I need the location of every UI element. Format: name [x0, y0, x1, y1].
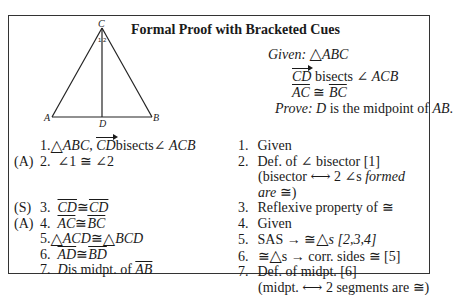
given-line-2: CD bisects ∠ ACB	[268, 69, 453, 85]
prove-line: Prove: D is the midpoint of AB.	[268, 101, 453, 117]
statement-row: 1.△ABC, CD bisects ∠ ACB	[14, 138, 196, 154]
cue-badge: (A)	[14, 154, 40, 170]
angle-2-label: 2	[103, 37, 107, 43]
reason-row: 1. Given	[238, 138, 429, 154]
triangle-icon: △	[51, 138, 63, 154]
reason-subline: (midpt. ⟷ 2 segments are ≅)	[238, 280, 429, 295]
reason-row: 5. SAS → ≅△s [2,3,4]	[238, 231, 429, 248]
statement-row: (S) 3. CD ≅ CD	[14, 200, 196, 216]
reason-row: 7. Def. of midpt. [6]	[238, 264, 429, 280]
vertex-b-label: B	[153, 112, 159, 123]
reason-row: 3. Reflexive property of ≅	[238, 200, 429, 216]
triangle-icon: △	[103, 231, 115, 247]
triangle-icon: △	[270, 247, 282, 264]
cue-badge: (A)	[14, 216, 40, 232]
reason-row: 6. ≅△s → corr. sides ≅ [5]	[238, 248, 429, 265]
cue-badge: (S)	[14, 200, 40, 216]
statement-row: (A) 4. AC ≅ BC	[14, 216, 196, 232]
statement-row: 6. AD ≅ BD	[14, 247, 196, 263]
statements-column: 1.△ABC, CD bisects ∠ ACB (A) 2. ∠1 ≅ ∠2 …	[14, 138, 196, 278]
reason-subline: (bisector ⟷ 2 ∠s formed	[238, 169, 429, 185]
triangle-icon: △	[310, 45, 322, 62]
given-line-3: AC ≅ BC	[268, 85, 453, 101]
vertex-c-label: C	[98, 18, 105, 29]
vertex-d-label: D	[98, 118, 107, 129]
angle-icon: ∠	[154, 138, 166, 154]
vertex-a-label: A	[43, 112, 51, 123]
statement-row: 7. D is midpt. of AB	[14, 262, 196, 278]
triangle-icon: △	[316, 230, 328, 247]
reason-row: 2. Def. of ∠ bisector [1]	[238, 154, 429, 170]
triangle-icon: △	[51, 231, 63, 247]
statement-row: (A) 2. ∠1 ≅ ∠2	[14, 154, 196, 170]
reason-row: 4. Given	[238, 216, 429, 232]
reason-subline: are ≅)	[238, 185, 429, 201]
reasons-column: 1. Given 2. Def. of ∠ bisector [1] (bise…	[238, 138, 429, 295]
angle-icon: ∠	[357, 69, 369, 84]
statement-row: 5.△ACD ≅△BCD	[14, 231, 196, 247]
given-prove-block: Given: △ABC CD bisects ∠ ACB AC ≅ BC Pro…	[268, 46, 453, 117]
given-line-1: Given: △ABC	[268, 46, 453, 63]
